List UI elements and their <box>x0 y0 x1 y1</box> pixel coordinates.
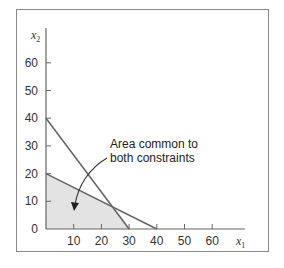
y-tick-label: 10 <box>25 194 39 208</box>
y-axis-label: x2 <box>30 28 40 44</box>
feasible-region <box>46 174 129 229</box>
x-tick-label: 10 <box>67 234 81 248</box>
y-tick-label: 60 <box>25 56 39 70</box>
y-tick-label: 40 <box>25 111 39 125</box>
y-tick-label: 20 <box>25 167 39 181</box>
x-tick-label: 40 <box>150 234 164 248</box>
x-tick-label: 60 <box>206 234 220 248</box>
x-tick-label: 30 <box>122 234 136 248</box>
y-tick-label: 50 <box>25 84 39 98</box>
annotation-line-2: both constraints <box>110 151 195 165</box>
x-tick-label: 50 <box>178 234 192 248</box>
y-tick-label: 30 <box>25 139 39 153</box>
x-tick-label: 20 <box>95 234 109 248</box>
y-tick-label: 0 <box>31 222 38 236</box>
x-axis-label: x1 <box>235 234 245 250</box>
annotation-line-1: Area common to <box>110 137 198 151</box>
chart-plot: 0 10 20 30 40 50 60 10 20 30 40 50 60 x2… <box>0 0 284 268</box>
